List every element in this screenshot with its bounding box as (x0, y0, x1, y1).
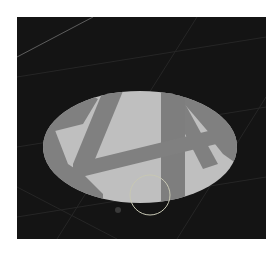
3d-viewport[interactable] (17, 17, 266, 239)
selected-edge (17, 17, 93, 57)
scene-render (17, 17, 266, 239)
origin-marker (115, 207, 121, 213)
spotlight-pool (43, 54, 237, 239)
